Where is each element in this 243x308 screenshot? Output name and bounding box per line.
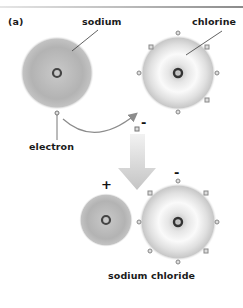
sodium-atom: [20, 36, 94, 115]
sodium-leader-line: [72, 30, 98, 51]
chloride-ion-charge: -: [174, 166, 179, 179]
electron-label: electron: [29, 141, 74, 152]
transfer-arrow-icon: [63, 114, 136, 132]
ionic-bond-diagram: [0, 0, 243, 308]
reaction-arrow-icon: [118, 134, 156, 190]
electron-charge: -: [141, 116, 146, 129]
electron-icon: [55, 111, 59, 115]
sodium-label: sodium: [82, 16, 122, 27]
chlorine-atom: [137, 31, 219, 114]
panel-label: (a): [8, 16, 23, 27]
chloride-ion: [137, 179, 219, 264]
transferred-electron-icon: [135, 127, 139, 131]
product-label: sodium chloride: [108, 270, 195, 281]
chlorine-label: chlorine: [192, 16, 236, 27]
sodium-ion: [79, 193, 133, 247]
sodium-ion-charge: +: [101, 178, 112, 191]
